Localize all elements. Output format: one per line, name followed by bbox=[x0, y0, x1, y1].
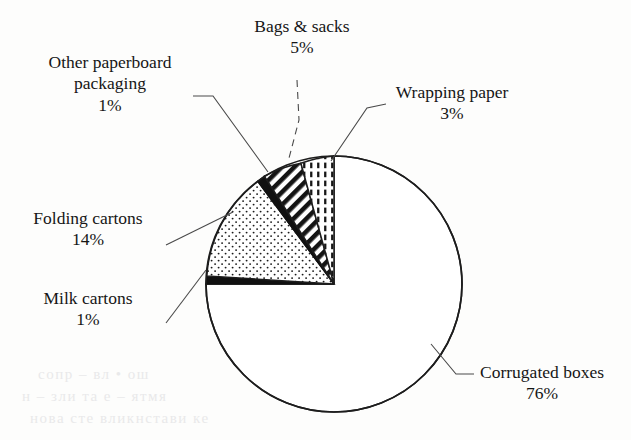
slice-label-other-paperboard-packaging-name-line-2: packaging bbox=[74, 73, 146, 93]
pie-chart-figure: сопр – вл • ош н – зли та е – ятмя нова … bbox=[0, 0, 631, 440]
slice-label-wrapping-paper-name: Wrapping paper bbox=[396, 82, 509, 102]
slice-label-other-paperboard-packaging: Other paperboard packaging 1% bbox=[22, 52, 198, 116]
leader-line-bags-and-sacks bbox=[288, 80, 299, 162]
slice-label-milk-cartons-percent: 1% bbox=[18, 309, 158, 330]
slice-label-wrapping-paper-percent: 3% bbox=[372, 103, 532, 124]
slice-label-other-paperboard-packaging-percent: 1% bbox=[22, 95, 198, 116]
slice-label-wrapping-paper: Wrapping paper 3% bbox=[372, 82, 532, 125]
slice-label-folding-cartons-percent: 14% bbox=[12, 229, 164, 250]
slice-label-bags-and-sacks-name: Bags & sacks bbox=[254, 16, 349, 36]
leader-line-other-paperboard-packaging bbox=[193, 96, 268, 172]
slice-label-corrugated-boxes-name: Corrugated boxes bbox=[480, 362, 604, 382]
slice-label-milk-cartons: Milk cartons 1% bbox=[18, 288, 158, 331]
slice-label-folding-cartons: Folding cartons 14% bbox=[12, 208, 164, 251]
slice-label-other-paperboard-packaging-name-line-1: Other paperboard bbox=[49, 52, 172, 72]
slice-label-corrugated-boxes: Corrugated boxes 76% bbox=[459, 362, 625, 405]
slice-label-folding-cartons-name: Folding cartons bbox=[33, 208, 142, 228]
slice-label-bags-and-sacks: Bags & sacks 5% bbox=[222, 16, 382, 59]
leader-line-milk-cartons bbox=[166, 270, 206, 323]
slice-label-bags-and-sacks-percent: 5% bbox=[222, 37, 382, 58]
slice-label-corrugated-boxes-percent: 76% bbox=[459, 383, 625, 404]
slice-label-milk-cartons-name: Milk cartons bbox=[44, 288, 133, 308]
